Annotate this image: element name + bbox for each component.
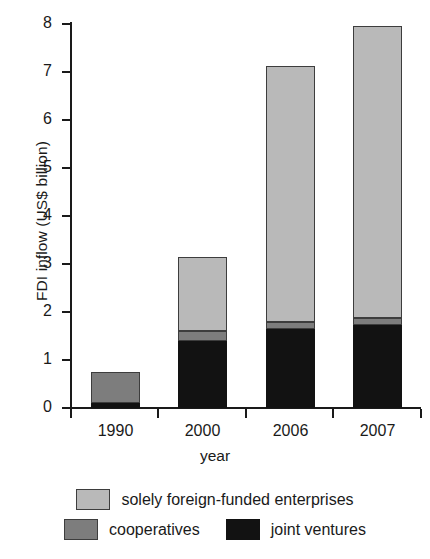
bar-2007 xyxy=(353,26,402,408)
bar-2006 xyxy=(266,66,315,408)
bar-segment-1990-cooperatives xyxy=(91,372,140,403)
legend-swatch-icon-cooperatives xyxy=(64,519,98,540)
fdi-inflow-stacked-bar-chart: FDI inflow (US$ billion) 012345678 19902… xyxy=(0,0,430,559)
legend-label-cooperatives: cooperatives xyxy=(109,521,200,539)
x-axis-tick xyxy=(332,409,334,418)
legend-item-joint-ventures: joint ventures xyxy=(226,519,366,540)
legend-label-solely-foreign-funded-enterprises: solely foreign-funded enterprises xyxy=(121,491,353,509)
legend-label-joint-ventures: joint ventures xyxy=(271,521,366,539)
bar-segment-2006-solely-foreign-funded-enterprises xyxy=(266,66,315,321)
x-axis-tick xyxy=(70,409,72,418)
bar-segment-2006-cooperatives xyxy=(266,322,315,329)
y-axis-tick xyxy=(62,263,70,265)
legend-item-solely-foreign-funded-enterprises: solely foreign-funded enterprises xyxy=(76,489,353,510)
y-axis-tick-label: 8 xyxy=(12,15,52,31)
x-axis-tick xyxy=(420,409,422,418)
bar-segment-2007-joint-ventures xyxy=(353,325,402,408)
bar-segment-2000-cooperatives xyxy=(178,331,227,341)
y-axis-tick-label: 6 xyxy=(12,111,52,127)
x-axis-tick xyxy=(245,409,247,418)
y-axis-tick-label: 5 xyxy=(12,159,52,175)
y-axis-tick xyxy=(62,71,70,73)
x-axis-tick-label-2000: 2000 xyxy=(158,422,248,440)
bar-1990 xyxy=(91,372,140,408)
bar-segment-2007-solely-foreign-funded-enterprises xyxy=(353,26,402,317)
y-axis-tick xyxy=(62,215,70,217)
bar-segment-2007-cooperatives xyxy=(353,318,402,326)
y-axis-tick-label: 4 xyxy=(12,207,52,223)
y-axis-tick-label: 2 xyxy=(12,303,52,319)
legend-row-2: cooperatives joint ventures xyxy=(0,516,430,543)
y-axis-tick xyxy=(62,119,70,121)
y-axis-tick xyxy=(62,311,70,313)
legend-row-1: solely foreign-funded enterprises xyxy=(0,486,430,513)
y-axis-tick xyxy=(62,23,70,25)
bar-segment-2000-joint-ventures xyxy=(178,341,227,408)
legend-item-cooperatives: cooperatives xyxy=(64,519,200,540)
y-axis-tick xyxy=(62,167,70,169)
y-axis-tick-label: 3 xyxy=(12,255,52,271)
y-axis-tick-label: 0 xyxy=(12,399,52,415)
x-axis-tick-label-2007: 2007 xyxy=(333,422,423,440)
bar-2000 xyxy=(178,257,227,408)
x-axis-tick xyxy=(157,409,159,418)
legend-swatch-icon-joint-ventures xyxy=(226,519,260,540)
plot-area xyxy=(70,24,420,408)
bar-segment-2006-joint-ventures xyxy=(266,329,315,408)
y-axis-tick xyxy=(62,407,70,409)
bar-segment-1990-joint-ventures xyxy=(91,403,140,408)
bar-segment-2000-solely-foreign-funded-enterprises xyxy=(178,257,227,331)
y-axis-tick-label: 7 xyxy=(12,63,52,79)
x-axis-tick-label-2006: 2006 xyxy=(246,422,336,440)
y-axis-tick-label: 1 xyxy=(12,351,52,367)
legend-swatch-icon-solely-foreign-funded-enterprises xyxy=(76,489,110,510)
chart-legend: solely foreign-funded enterprises cooper… xyxy=(0,486,430,552)
x-axis-tick-label-1990: 1990 xyxy=(71,422,161,440)
y-axis-tick xyxy=(62,359,70,361)
x-axis-title: year xyxy=(0,447,430,465)
